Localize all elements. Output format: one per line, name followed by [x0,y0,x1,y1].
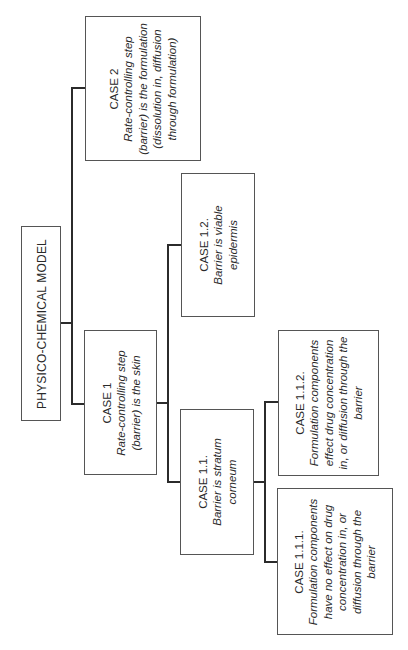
node-case1-1: CASE 1.1. Barrier is stratum corneum [180,409,254,555]
case111-title: CASE 1.1.1. [292,494,306,629]
connector-case11 [167,481,180,483]
case1-title: CASE 1 [99,338,113,468]
case2-title: CASE 2 [107,21,121,156]
case111-description: Formulation components have no effect on… [306,494,379,629]
node-case2: CASE 2 Rate-controlling step (barrier) i… [85,16,201,161]
connector-case112 [264,401,278,403]
node-case1: CASE 1 Rate-controlling step (barrier) i… [84,330,157,475]
case11-title: CASE 1.1. [196,427,210,537]
connector-case2 [71,87,85,89]
node-case1-1-2: CASE 1.1.2. Formulation components effec… [278,330,379,476]
connector-root-spine [71,88,73,404]
case12-description: Barrier is viable epidermis [211,190,240,300]
root-node: PHYSICO-CHEMICAL MODEL [21,226,61,421]
case112-description: Formulation components effect drug conce… [307,336,365,471]
connector-case1-spine [167,244,169,482]
connector-case11-spine [264,401,266,562]
case11-description: Barrier is stratum corneum [210,427,239,537]
connector-case12 [167,244,181,246]
case112-title: CASE 1.1.2. [293,336,307,471]
connector-case111 [264,561,277,563]
node-case1-1-1: CASE 1.1.1. Formulation components have … [277,488,393,635]
case12-title: CASE 1.2. [197,190,211,300]
connector-case1 [71,403,84,405]
root-label: PHYSICO-CHEMICAL MODEL [35,239,49,409]
case2-description: Rate-controlling step (barrier) is the f… [121,21,179,156]
node-case1-2: CASE 1.2. Barrier is viable epidermis [181,173,255,317]
case1-description: Rate-controlling step (barrier) is the s… [113,338,142,468]
